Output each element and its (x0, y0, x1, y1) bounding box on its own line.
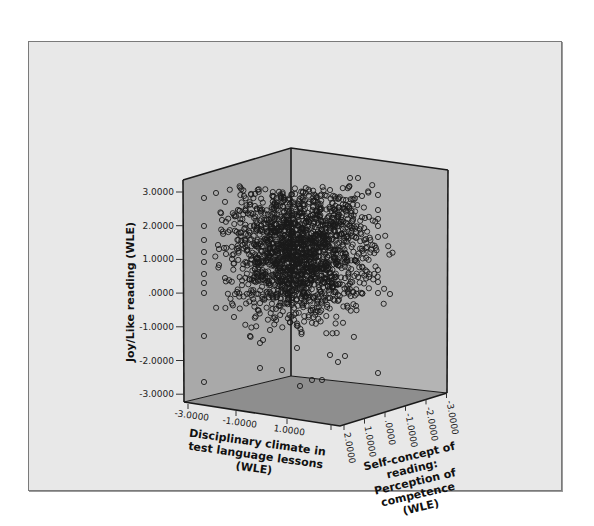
x-tick-label: 1.0000 (273, 423, 306, 437)
z-tick-label: -2.0000 (424, 406, 440, 442)
y-axis-title: Joy/Like reading (WLE) (124, 222, 137, 363)
y-tick-label: -3.0000 (139, 389, 174, 399)
y-tick-label: 2.0000 (143, 221, 175, 231)
z-tick-label: -1.0000 (404, 412, 420, 448)
x-axis-title: Disciplinary climate in test language le… (185, 426, 327, 484)
y-tick-label: 3.0000 (143, 187, 175, 197)
z-tick-label: .0000 (383, 419, 397, 446)
y-tick-label: 1.0000 (143, 254, 175, 264)
y-tick-label: -2.0000 (139, 356, 174, 366)
y-tick-label: .0000 (148, 288, 174, 298)
z-tick-label: -3.0000 (445, 400, 461, 436)
z-tick-label: 1.0000 (363, 425, 378, 458)
z-tick-label: 2.0000 (342, 432, 357, 465)
y-tick-label: -1.0000 (139, 322, 174, 332)
y-axis-ticks: 3.00002.00001.0000.0000-1.0000-2.0000-3.… (139, 187, 183, 399)
x-tick-label: -3.0000 (174, 408, 210, 423)
x-tick-label: -1.0000 (222, 415, 258, 430)
scatter-3d-chart: 3.00002.00001.0000.0000-1.0000-2.0000-3.… (0, 0, 594, 526)
